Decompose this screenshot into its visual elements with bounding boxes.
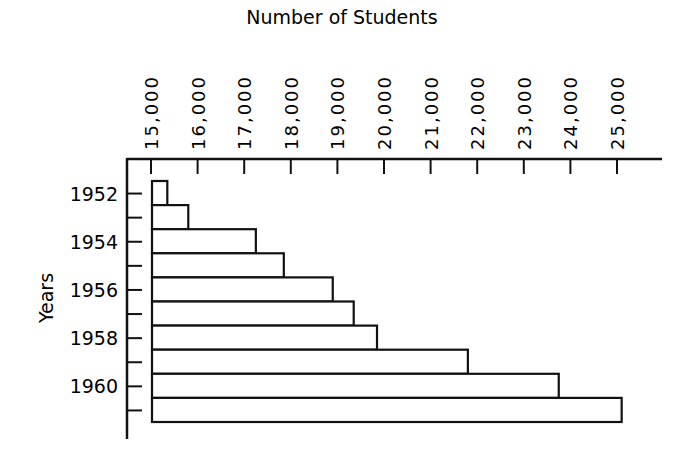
bar-1956 xyxy=(152,277,333,301)
x-tick-label: 16,000 xyxy=(188,75,209,150)
x-tick-label: 17,000 xyxy=(234,75,255,150)
bar-1961 xyxy=(152,398,622,422)
bar-1957 xyxy=(152,302,354,326)
bar-1954 xyxy=(152,229,256,253)
y-axis-ticks: 19521954195619581960 xyxy=(70,183,142,411)
bar-1955 xyxy=(152,253,284,277)
y-tick-label: 1958 xyxy=(70,327,118,349)
bar-1952 xyxy=(152,181,167,205)
y-tick-label: 1960 xyxy=(70,375,118,397)
y-axis-label: Years xyxy=(35,273,57,324)
bar-1959 xyxy=(152,350,468,374)
x-tick-label: 23,000 xyxy=(514,75,535,150)
x-tick-label: 24,000 xyxy=(560,75,581,150)
y-tick-label: 1956 xyxy=(70,279,118,301)
x-tick-label: 20,000 xyxy=(374,75,395,150)
y-tick-label: 1954 xyxy=(70,231,118,253)
chart-title: Number of Students xyxy=(246,6,437,28)
x-tick-label: 15,000 xyxy=(141,75,162,150)
bars xyxy=(152,181,622,422)
x-tick-label: 25,000 xyxy=(607,75,628,150)
bar-chart: Number of Students 15,00016,00017,00018,… xyxy=(0,0,683,461)
bar-1960 xyxy=(152,374,559,398)
x-tick-label: 22,000 xyxy=(467,75,488,150)
y-tick-label: 1952 xyxy=(70,183,118,205)
x-tick-label: 21,000 xyxy=(421,75,442,150)
x-tick-label: 18,000 xyxy=(281,75,302,150)
bar-1958 xyxy=(152,326,377,350)
x-tick-label: 19,000 xyxy=(327,75,348,150)
bar-1953 xyxy=(152,205,188,229)
